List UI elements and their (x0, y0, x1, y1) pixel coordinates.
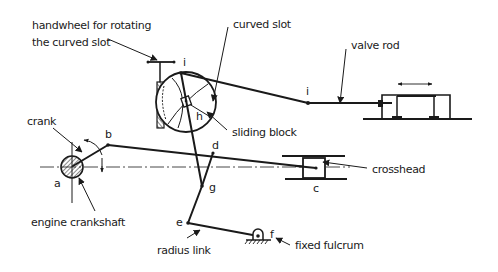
label-valve-rod: valve rod (351, 39, 399, 52)
point-f: f (270, 228, 275, 241)
leader-handwheel (108, 39, 157, 60)
handwheel-end-left (147, 61, 150, 64)
label-curved-slot: curved slot (233, 18, 292, 31)
crosshead-assembly (282, 156, 347, 179)
joint-i-rod (306, 101, 310, 105)
point-i-rod: i (306, 85, 309, 98)
label-handwheel-line2: the curved slot (32, 36, 111, 49)
point-b: b (105, 128, 112, 141)
handwheel-end-right (173, 61, 176, 64)
label-handwheel-line1: handwheel for rotating (32, 19, 151, 32)
leader-radius-link (187, 230, 200, 238)
label-engine-crankshaft: engine crankshaft (31, 216, 126, 229)
crank-arm (73, 145, 108, 166)
label-radius-link: radius link (157, 244, 212, 257)
point-i-top: i (183, 56, 186, 69)
rotation-arrow-icon (84, 140, 102, 155)
link-g-to-e (188, 186, 202, 223)
fixed-fulcrum-support (245, 229, 271, 244)
leader-fixed-fulcrum (276, 238, 290, 245)
radius-link (188, 223, 258, 236)
valve-chest-outline (382, 95, 450, 119)
leader-arrows (53, 27, 367, 245)
point-g: g (209, 181, 216, 194)
label-sliding-block: sliding block (232, 126, 298, 139)
point-c: c (313, 182, 319, 195)
point-e: e (176, 216, 183, 229)
point-d: d (212, 139, 219, 152)
leader-valve-rod (340, 49, 346, 103)
joint-c (314, 166, 317, 169)
label-crosshead: crosshead (372, 163, 425, 176)
engine-crankshaft-circle (61, 156, 83, 178)
joint-i-top (179, 71, 183, 75)
leader-curved-slot (213, 27, 228, 101)
point-a: a (54, 177, 61, 190)
label-fixed-fulcrum: fixed fulcrum (295, 239, 364, 252)
valve-assembly (306, 84, 472, 119)
leader-crank (53, 128, 82, 152)
point-h: h (196, 110, 203, 123)
joint-f (256, 234, 260, 238)
valve-gear-diagram: handwheel for rotating the curved slot c… (0, 0, 498, 272)
leader-crankshaft (79, 178, 95, 211)
label-crank: crank (27, 115, 57, 128)
